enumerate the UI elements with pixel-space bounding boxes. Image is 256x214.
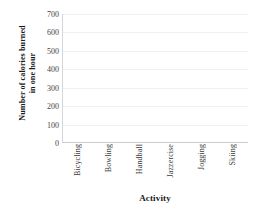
- x-axis-tick-label-text: Bicycling: [73, 144, 82, 176]
- x-axis-tick-label-text: Jazzercise: [166, 144, 175, 177]
- x-axis-tick-label: Bicycling: [62, 144, 93, 190]
- plot-area: [62, 14, 248, 143]
- gridline: [63, 88, 248, 89]
- x-axis-tick-label: Jazzercise: [155, 144, 186, 190]
- y-axis-tick-labels: 7006005004003002001000: [33, 14, 59, 143]
- gridline: [63, 51, 248, 52]
- x-axis-tick-label-text: Jogging: [197, 144, 206, 170]
- y-axis-tick-label: 500: [33, 46, 59, 55]
- x-axis-tick-label: Jogging: [186, 144, 217, 190]
- y-axis-tick-label: 100: [33, 120, 59, 129]
- y-axis-tick-label: 300: [33, 83, 59, 92]
- gridline: [63, 106, 248, 107]
- x-axis-tick-label: Handball: [124, 144, 155, 190]
- x-axis-tick-label-text: Skiing: [228, 144, 237, 166]
- x-axis-tick-labels: BicyclingBowlingHandballJazzerciseJoggin…: [62, 144, 248, 190]
- y-axis-tick-label: 600: [33, 28, 59, 37]
- x-axis-tick-label-text: Bowling: [104, 144, 113, 172]
- gridline: [63, 69, 248, 70]
- y-axis-title-line-1: Number of calories burned: [18, 25, 28, 120]
- y-axis-tick-label: 400: [33, 65, 59, 74]
- y-axis-tick-label: 0: [33, 139, 59, 148]
- x-axis-tick-label-text: Handball: [135, 144, 144, 174]
- y-axis-tick-label: 200: [33, 102, 59, 111]
- gridline: [63, 125, 248, 126]
- gridline: [63, 14, 248, 15]
- x-axis-title: Activity: [62, 193, 248, 203]
- gridline: [63, 32, 248, 33]
- bar-chart-figure: Number of calories burned in one hour 70…: [0, 0, 256, 214]
- y-axis-tick-label: 700: [33, 10, 59, 19]
- x-axis-tick-label: Skiing: [217, 144, 248, 190]
- x-axis-tick-label: Bowling: [93, 144, 124, 190]
